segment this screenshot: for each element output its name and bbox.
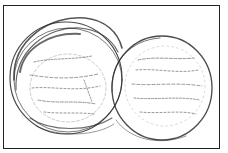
left-culture-streaks <box>30 56 100 114</box>
left-dish <box>10 18 122 134</box>
petri-dish-sketch <box>0 0 228 153</box>
right-dish <box>112 36 212 141</box>
right-culture-streaks <box>132 58 202 114</box>
